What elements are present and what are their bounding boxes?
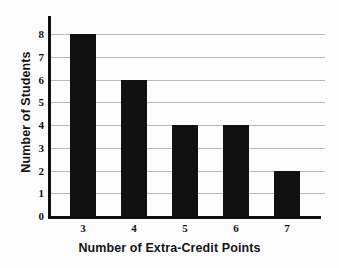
- x-axis-tick-label: 5: [165, 222, 205, 234]
- x-axis-title: Number of Extra-Credit Points: [0, 241, 339, 255]
- bar: [223, 125, 249, 216]
- y-axis-tick-label: 3: [26, 142, 44, 154]
- y-axis-tick-label: 0: [26, 210, 44, 222]
- y-axis-tick-label: 2: [26, 165, 44, 177]
- bar: [172, 125, 198, 216]
- x-axis-tick-label: 6: [216, 222, 256, 234]
- x-axis-tick-label: 4: [114, 222, 154, 234]
- bars-layer: [48, 16, 325, 219]
- bar: [121, 80, 147, 217]
- y-axis-tick-label: 1: [26, 187, 44, 199]
- y-axis-tick-label: 4: [26, 119, 44, 131]
- x-axis-tick-label: 7: [267, 222, 307, 234]
- y-axis-tick-label: 7: [26, 51, 44, 63]
- x-axis-tick-label: 3: [63, 222, 103, 234]
- x-axis-tick-labels: 34567: [48, 222, 325, 238]
- bar: [70, 34, 96, 216]
- y-axis-tick-label: 8: [26, 28, 44, 40]
- y-axis-tick-label: 5: [26, 96, 44, 108]
- y-axis-tick-labels: 012345678: [26, 29, 44, 219]
- plot-area: [48, 16, 325, 219]
- y-axis-tick-label: 6: [26, 74, 44, 86]
- bar: [274, 171, 300, 217]
- bar-chart-figure: Number of Students 012345678 34567 Numbe…: [0, 0, 339, 268]
